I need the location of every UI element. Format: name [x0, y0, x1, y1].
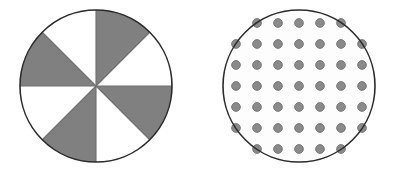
dotted-circle	[223, 10, 375, 162]
grid-dot-r1-c3	[295, 19, 304, 28]
grid-dot-r5-c2	[253, 103, 262, 112]
grid-dot-r4-c1	[232, 82, 241, 91]
grid-dot-r5-c3	[274, 103, 283, 112]
grid-dot-r5-c5	[316, 103, 325, 112]
grid-dot-r7-c2	[274, 145, 283, 154]
grid-dot-r3-c4	[295, 61, 304, 70]
grid-dot-r1-c4	[316, 19, 325, 28]
grid-dot-r1-c2	[274, 19, 283, 28]
grid-dot-r2-c5	[316, 40, 325, 49]
grid-dot-r4-c5	[316, 82, 325, 91]
grid-dot-r2-c4	[295, 40, 304, 49]
pinwheel-circle	[20, 10, 172, 162]
grid-dot-r4-c4	[295, 82, 304, 91]
grid-dot-r4-c6	[337, 82, 346, 91]
grid-dot-r4-c2	[253, 82, 262, 91]
grid-dot-r2-c2	[253, 40, 262, 49]
grid-dot-r4-c7	[358, 82, 367, 91]
grid-dot-r6-c2	[253, 124, 262, 133]
grid-dot-r2-c6	[337, 40, 346, 49]
grid-dot-r3-c2	[253, 61, 262, 70]
grid-dot-r6-c5	[316, 124, 325, 133]
grid-dot-r3-c1	[232, 61, 241, 70]
grid-dot-r4-c3	[274, 82, 283, 91]
figure-canvas	[0, 0, 399, 172]
grid-dot-r3-c3	[274, 61, 283, 70]
grid-dot-r3-c7	[358, 61, 367, 70]
grid-dot-r3-c6	[337, 61, 346, 70]
grid-dot-r5-c6	[337, 103, 346, 112]
grid-dot-r6-c4	[295, 124, 304, 133]
grid-dot-r5-c4	[295, 103, 304, 112]
grid-dot-r6-c6	[337, 124, 346, 133]
grid-dot-r2-c3	[274, 40, 283, 49]
grid-dot-r3-c5	[316, 61, 325, 70]
two-circles-figure	[0, 0, 399, 172]
grid-dot-r6-c3	[274, 124, 283, 133]
grid-dot-r7-c4	[316, 145, 325, 154]
grid-dot-r5-c7	[358, 103, 367, 112]
grid-dot-r5-c1	[232, 103, 241, 112]
grid-dot-r7-c3	[295, 145, 304, 154]
